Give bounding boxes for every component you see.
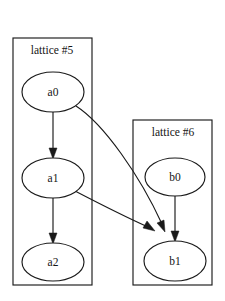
node-a2[interactable]: a2	[22, 243, 84, 281]
arrowhead-a1-a2	[49, 233, 57, 244]
arrowhead-a0-a1	[49, 148, 57, 159]
graph-svg: lattice #5 lattice #6 a0 a1	[0, 0, 225, 301]
node-a0[interactable]: a0	[22, 72, 84, 112]
arrowhead-b0-b1	[171, 231, 179, 242]
cluster-label-lattice-5: lattice #5	[31, 44, 74, 56]
node-label-b1: b1	[169, 255, 181, 267]
arrowhead-a1-b1	[143, 221, 155, 231]
diagram-canvas: lattice #5 lattice #6 a0 a1	[0, 0, 225, 301]
edge-a0-b1[interactable]	[76, 106, 162, 224]
node-label-a2: a2	[48, 256, 59, 268]
node-a1[interactable]: a1	[22, 158, 84, 198]
node-label-a1: a1	[48, 172, 59, 184]
node-b1[interactable]: b1	[144, 241, 206, 281]
edge-a1-b1[interactable]	[75, 191, 148, 227]
node-label-a0: a0	[48, 86, 59, 98]
node-b0[interactable]: b0	[145, 158, 205, 196]
node-group: a0 a1 a2 b0 b1	[22, 72, 206, 281]
cluster-label-lattice-6: lattice #6	[152, 126, 195, 138]
node-label-b0: b0	[169, 171, 181, 183]
arrowhead-a0-b1	[157, 220, 165, 232]
